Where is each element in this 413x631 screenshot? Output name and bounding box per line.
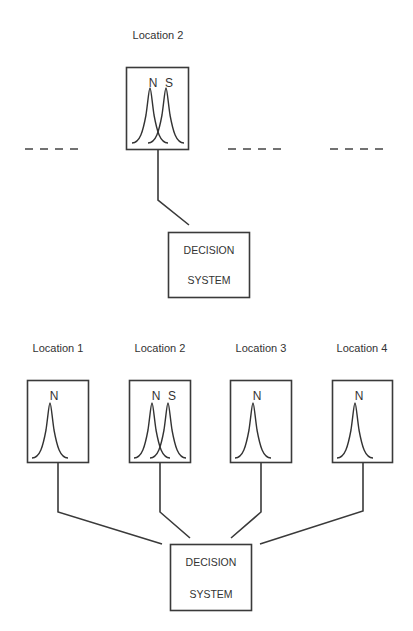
location-2-sensor-box: N S bbox=[127, 68, 189, 150]
location-1-sensor-box: N bbox=[28, 381, 89, 463]
bottom-panel: Location 1 Location 2 Location 3 Locatio… bbox=[28, 342, 393, 611]
decision-system-box: DECISION SYSTEM bbox=[171, 545, 252, 611]
signal-detection-diagram: Location 2 N S DECISION SYSTEM Location … bbox=[0, 0, 413, 631]
location-label: Location 2 bbox=[133, 29, 184, 41]
location-2-label: Location 2 bbox=[135, 342, 186, 354]
location-3-label: Location 3 bbox=[236, 342, 287, 354]
location-2-sensor-box: N S bbox=[130, 381, 191, 463]
signal-label: S bbox=[168, 389, 176, 403]
noise-label: N bbox=[152, 389, 161, 403]
connector-line-location-4 bbox=[260, 463, 363, 544]
connector-line-location-1 bbox=[58, 463, 162, 544]
location-3-sensor-box: N bbox=[231, 381, 292, 463]
decision-system-box: DECISION SYSTEM bbox=[169, 233, 250, 298]
location-4-sensor-box: N bbox=[333, 381, 393, 463]
location-1-label: Location 1 bbox=[33, 342, 84, 354]
system-label: SYSTEM bbox=[187, 274, 230, 286]
connector-line bbox=[158, 150, 189, 225]
noise-label: N bbox=[355, 389, 364, 403]
connector-line-location-3 bbox=[231, 463, 261, 538]
noise-label: N bbox=[253, 389, 262, 403]
decision-label: DECISION bbox=[186, 556, 237, 568]
top-panel: Location 2 N S DECISION SYSTEM bbox=[25, 29, 386, 298]
noise-label: N bbox=[50, 389, 59, 403]
location-4-label: Location 4 bbox=[337, 342, 388, 354]
connector-line-location-2 bbox=[160, 463, 190, 538]
system-label: SYSTEM bbox=[189, 588, 232, 600]
decision-label: DECISION bbox=[184, 244, 235, 256]
